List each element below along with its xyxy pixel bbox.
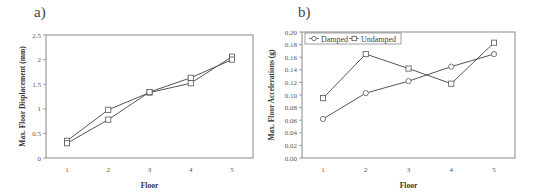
square-marker	[449, 81, 454, 86]
square-marker	[406, 66, 411, 71]
circle-marker	[491, 51, 496, 56]
y-tick-label: 0.06	[285, 117, 298, 125]
y-tick-label: 0.02	[285, 142, 298, 150]
x-tick-label: 1	[321, 166, 325, 174]
y-tick-label: 0.18	[285, 41, 298, 49]
x-tick-label: 5	[492, 166, 496, 174]
plot-frame	[302, 32, 515, 158]
y-tick-label: 0.00	[285, 155, 298, 163]
x-tick-label: 2	[364, 166, 368, 174]
chart-legend: DampedUndamped	[305, 33, 401, 44]
y-axis-title: Max. Floor Accelerations (g)	[267, 49, 276, 141]
circle-marker	[320, 116, 325, 121]
y-tick-label: 0.12	[285, 79, 298, 87]
y-tick-label: 0.10	[285, 92, 298, 100]
circle-marker	[363, 91, 368, 96]
y-tick-label: 0.14	[285, 66, 298, 74]
circle-marker	[449, 64, 454, 69]
legend-circle-icon	[312, 36, 316, 40]
square-marker	[363, 51, 368, 56]
chart-b-accelerations: 0.000.020.040.060.080.100.120.140.160.18…	[0, 0, 534, 194]
square-marker	[491, 40, 496, 45]
y-tick-label: 0.04	[285, 129, 298, 137]
y-tick-label: 0.16	[285, 54, 298, 62]
x-axis-title: Floor	[400, 181, 418, 190]
x-tick-label: 3	[407, 166, 411, 174]
series-line-damped	[323, 54, 494, 119]
y-tick-label: 0.08	[285, 104, 298, 112]
square-marker	[320, 96, 325, 101]
legend-entry-damped: Damped	[321, 35, 348, 44]
y-tick-label: 0.20	[285, 29, 298, 37]
circle-marker	[406, 79, 411, 84]
x-tick-label: 4	[450, 166, 454, 174]
legend-entry-undamped: Undamped	[361, 35, 396, 44]
legend-square-icon	[352, 36, 356, 40]
